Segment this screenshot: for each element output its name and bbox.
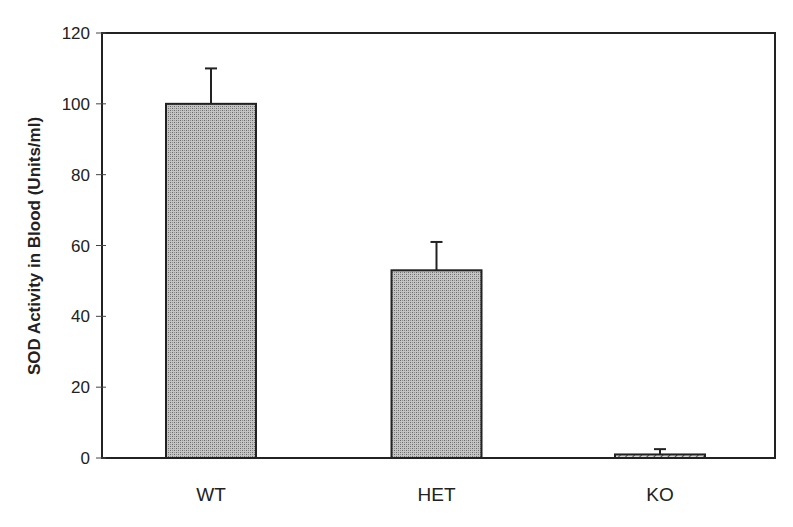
bar-rect	[615, 454, 705, 458]
y-axis: 020406080100120	[62, 24, 106, 468]
bar-chart: 020406080100120 SOD Activity in Blood (U…	[0, 0, 793, 527]
x-tick-label-wt: WT	[196, 484, 226, 505]
bar-wt	[166, 68, 256, 458]
bar-het	[392, 242, 482, 458]
y-tick-label: 0	[81, 449, 90, 468]
y-tick-label: 40	[71, 307, 90, 326]
bar-rect	[392, 270, 482, 458]
y-tick-label: 100	[62, 95, 90, 114]
x-tick-label-het: HET	[418, 484, 456, 505]
bars	[166, 68, 705, 458]
bar-rect	[166, 104, 256, 458]
bar-ko	[615, 449, 705, 458]
y-tick-label: 80	[71, 166, 90, 185]
y-tick-label: 60	[71, 237, 90, 256]
x-tick-label-ko: KO	[646, 484, 673, 505]
y-tick-label: 120	[62, 24, 90, 43]
x-axis: WTHETKO	[196, 484, 674, 505]
y-axis-title: SOD Activity in Blood (Units/ml)	[25, 117, 44, 375]
y-tick-label: 20	[71, 378, 90, 397]
